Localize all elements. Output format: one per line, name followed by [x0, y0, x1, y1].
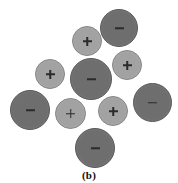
ion-anion-top-right	[100, 9, 138, 47]
charge-bar-horizontal	[115, 27, 124, 29]
minus-sign-icon	[87, 75, 96, 84]
charge-bar-vertical	[86, 37, 88, 46]
plus-sign-icon	[123, 61, 132, 70]
minus-sign-icon	[115, 24, 124, 33]
ion-cation-right-upper	[112, 50, 142, 80]
charge-bar-vertical	[126, 61, 128, 70]
plus-sign-icon	[46, 70, 55, 79]
ion-cation-left-upper	[35, 59, 65, 89]
ion-cation-bottom-left	[55, 98, 86, 129]
charge-bar-horizontal	[26, 109, 35, 111]
charge-bar-vertical	[112, 107, 114, 116]
charge-bar-horizontal	[91, 147, 100, 149]
ion-distribution-figure: (b)	[0, 0, 178, 183]
ion-anion-bottom	[75, 128, 115, 168]
charge-bar-horizontal	[87, 78, 96, 80]
charge-bar-vertical	[70, 109, 72, 118]
minus-sign-icon	[148, 98, 157, 107]
ion-anion-right	[133, 83, 172, 122]
charge-bar-vertical	[49, 70, 51, 79]
minus-sign-icon	[26, 106, 35, 115]
plus-sign-icon	[66, 109, 75, 118]
ion-anion-left	[10, 90, 50, 130]
ion-cation-bottom-mid	[98, 96, 128, 126]
ion-anion-center	[70, 58, 112, 100]
ion-field	[0, 0, 178, 168]
minus-sign-icon	[91, 144, 100, 153]
figure-caption: (b)	[0, 169, 178, 181]
ion-cation-top	[72, 26, 102, 56]
charge-bar-horizontal	[148, 102, 157, 104]
plus-sign-icon	[83, 37, 92, 46]
plus-sign-icon	[109, 107, 118, 116]
